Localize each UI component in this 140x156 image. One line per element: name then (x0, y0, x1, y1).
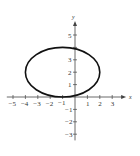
y-tick-label: −2 (65, 118, 73, 126)
y-tick-label: −1 (65, 106, 73, 114)
x-tick-label: 2 (98, 100, 102, 108)
curves (25, 47, 99, 97)
y-axis-label: y (71, 14, 75, 20)
x-tick-label: −2 (46, 100, 54, 108)
x-axis-arrow-icon (121, 95, 126, 99)
ellipse-graph: xy −5−4−3−2−11235321−1−2−3 (0, 0, 140, 156)
x-tick-label: 1 (86, 100, 90, 108)
y-tick-label: 5 (68, 32, 72, 40)
y-tick-label: 3 (68, 56, 72, 64)
axis-ticks (13, 35, 112, 134)
y-tick-label: −3 (65, 131, 73, 139)
ellipse-curve (25, 47, 99, 97)
x-axis-label: x (128, 94, 132, 100)
y-axis-arrow-icon (73, 21, 77, 26)
x-tick-label: −5 (9, 100, 17, 108)
x-tick-label: 3 (111, 100, 115, 108)
y-tick-label: 1 (68, 81, 72, 89)
x-tick-label: −4 (21, 100, 29, 108)
y-tick-label: 2 (68, 69, 72, 77)
x-tick-label: −3 (33, 100, 41, 108)
